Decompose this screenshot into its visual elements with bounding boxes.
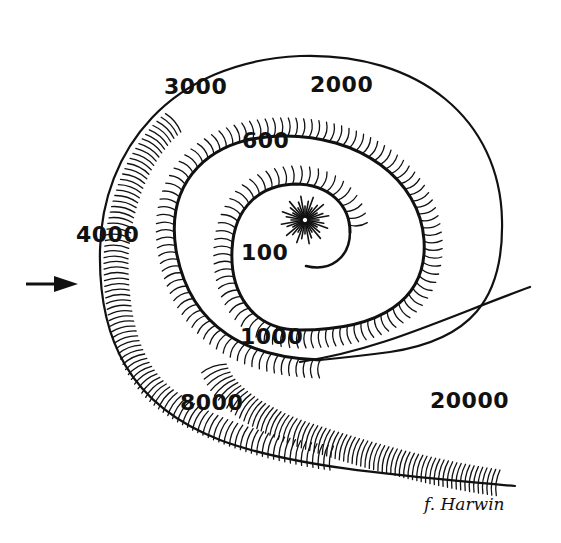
apex-curl (306, 232, 350, 267)
frequency-label-2000: 2000 (310, 74, 373, 96)
frequency-label-4000: 4000 (76, 224, 139, 246)
frequency-label-20000: 20000 (430, 390, 509, 412)
frequency-label-1000: 1000 (240, 326, 303, 348)
arrow-right-icon (26, 276, 78, 292)
tail-upper-outline (300, 287, 530, 362)
frequency-label-100: 100 (241, 242, 288, 264)
frequency-label-600: 600 (242, 130, 289, 152)
frequency-label-8000: 8000 (180, 392, 243, 414)
hatching (100, 56, 500, 496)
apex-starburst (281, 196, 328, 243)
cochlea-spiral-drawing (0, 0, 561, 543)
frequency-label-3000: 3000 (164, 76, 227, 98)
cochlea-diagram: 1006001000200030004000800020000 f. Harwi… (0, 0, 561, 543)
artist-signature: f. Harwin (424, 494, 505, 514)
